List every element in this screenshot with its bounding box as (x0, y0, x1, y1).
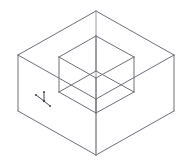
outer-box-edge-0 (18, 11, 96, 55)
inner-cube-edge-1 (96, 36, 134, 57)
coordinate-axis-triad (35, 91, 51, 107)
axis-x-tip (35, 94, 37, 96)
outer-box-edge-1 (96, 11, 174, 55)
outer-box-edge-8 (96, 111, 174, 155)
inner-cube-edge-11 (96, 92, 134, 113)
inner-cube-edge-0 (59, 36, 96, 57)
outer-box-edge-2 (18, 55, 96, 99)
outer-box-edge-7 (18, 111, 96, 155)
drawing-canvas: ... (0, 0, 191, 166)
axis-x-arrow (36, 95, 44, 101)
axis-y-tip (49, 105, 51, 107)
axis-origin-dot (43, 100, 45, 102)
inner-cube-edge-2 (59, 57, 96, 78)
inner-cube-edge-3 (96, 57, 134, 78)
isometric-wireframe-figure (0, 0, 191, 166)
inner-cube-edge-10 (59, 92, 96, 113)
axis-z-tip (43, 91, 45, 93)
